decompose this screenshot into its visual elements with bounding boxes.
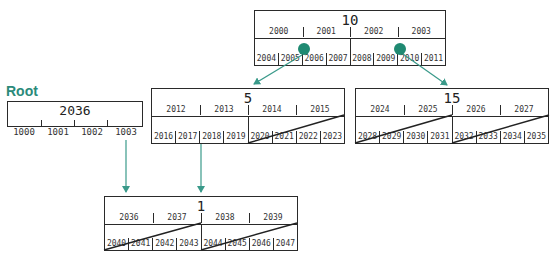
diagonal-line: [452, 115, 549, 143]
connections-overlay: [0, 0, 556, 267]
diagonal-line: [201, 223, 297, 250]
pointer-dot: [298, 43, 310, 55]
arrow-to-node-5: [254, 55, 302, 84]
diagonal-line: [104, 223, 201, 250]
pointer-dot: [394, 43, 406, 55]
diagonal-line: [248, 115, 344, 143]
arrow-to-node-15: [403, 54, 447, 85]
diagonal-line: [355, 115, 452, 143]
